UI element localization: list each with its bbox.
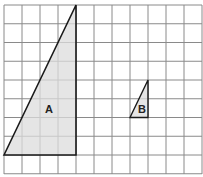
grid-diagram: A B	[0, 0, 203, 177]
triangle-b-label: B	[138, 103, 146, 115]
triangle-a-label: A	[45, 103, 53, 115]
